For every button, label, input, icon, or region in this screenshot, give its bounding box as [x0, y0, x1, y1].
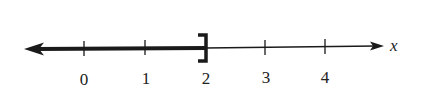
tick-label-1: 1 [142, 69, 151, 88]
axis-line [205, 46, 376, 48]
number-line-diagram: 0 1 2 3 4 x [0, 0, 427, 99]
tick-label-0: 0 [80, 70, 89, 89]
tick-label-2: 2 [202, 69, 211, 88]
tick-labels: 0 1 2 3 4 [80, 68, 330, 89]
variable-label: x [389, 36, 398, 55]
shaded-ray [36, 48, 205, 49]
tick-label-3: 3 [262, 68, 271, 87]
tick-label-4: 4 [321, 68, 330, 87]
